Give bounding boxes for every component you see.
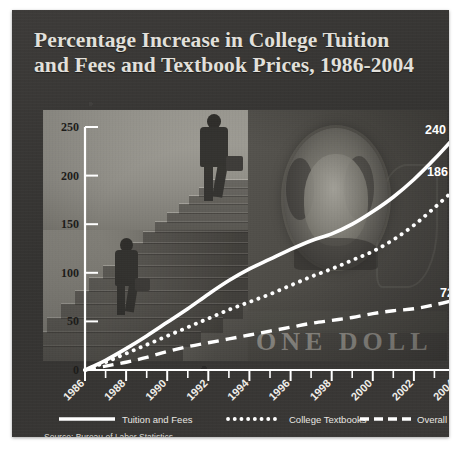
title-line-1: Percentage Increase in College Tuition [34,28,434,53]
y-axis: 250 200 150 100 50 0 [61,120,98,377]
chart-card: Percentage Increase in College Tuition a… [12,10,449,437]
x-tick-2000: 2000 [348,377,374,403]
chart-page: Percentage Increase in College Tuition a… [0,0,459,453]
y-tick-0: 0 [73,363,79,377]
y-tick-100: 100 [61,266,79,280]
legend: Tuition and Fees College Textbooks Overa… [59,414,449,425]
end-label-overall: 72 [440,286,449,300]
series-line-overall-prices [85,300,449,370]
y-tick-labels: 250 200 150 100 50 0 [61,120,79,377]
legend-label-overall-prices: Overall Prices [417,414,449,425]
x-axis: 1986 1988 1990 1992 1994 1996 1998 2000 … [61,370,449,403]
x-tick-1994: 1994 [225,376,251,402]
x-tick-1988: 1988 [102,377,128,403]
end-label-textbooks: 186 [427,165,448,179]
x-tick-1996: 1996 [266,377,292,403]
x-tick-labels: 1986 1988 1990 1992 1994 1996 1998 2000 … [61,376,449,402]
x-tick-1998: 1998 [307,377,333,403]
x-tick-1986: 1986 [61,377,87,403]
legend-label-college-textbooks: College Textbooks [289,414,367,425]
legend-label-tuition-and-fees: Tuition and Fees [122,414,193,425]
y-tick-50: 50 [67,314,79,328]
x-tick-2002: 2002 [390,377,416,403]
page-title: Percentage Increase in College Tuition a… [34,28,434,78]
title-line-2: and Fees and Textbook Prices, 1986-2004 [34,53,434,78]
y-tick-250: 250 [61,120,79,134]
x-tick-1990: 1990 [143,377,169,403]
end-label-tuition: 240 [425,123,446,137]
y-axis-ticks [85,127,98,370]
x-axis-ticks [85,370,449,381]
x-tick-1992: 1992 [184,377,210,403]
y-tick-200: 200 [61,169,79,183]
series-line-tuition-and-fees [85,137,449,370]
x-tick-2004: 2004 [431,376,449,402]
series-line-college-textbooks [85,189,449,370]
y-tick-150: 150 [61,217,79,231]
source-note: Source: Bureau of Labor Statistics. [44,432,175,437]
